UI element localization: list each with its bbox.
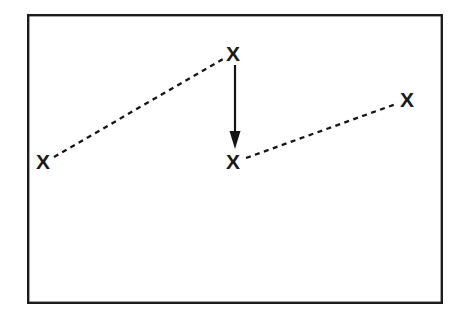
marker-left: X bbox=[36, 150, 50, 173]
marker-top-middle: X bbox=[226, 42, 240, 65]
marker-right: X bbox=[400, 88, 414, 111]
diagram-figure: X X X X bbox=[0, 0, 468, 321]
marker-bottom-middle: X bbox=[226, 150, 240, 173]
diagram-canvas: X X X X bbox=[0, 0, 468, 321]
